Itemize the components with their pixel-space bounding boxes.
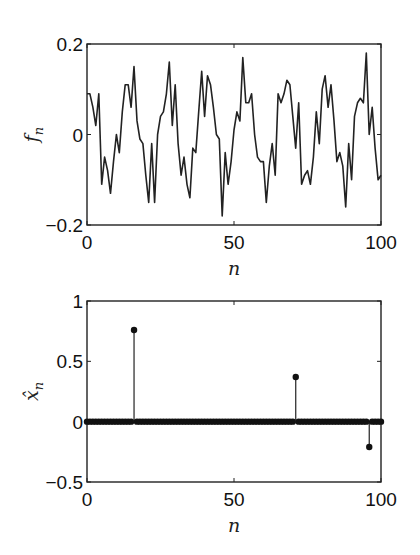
top-plot-tick-labels: 050100−0.200.2 [45, 34, 396, 253]
y-tick-label: 0.5 [57, 351, 83, 372]
top-plot-xlabel: n [228, 257, 240, 279]
y-tick-label: −0.2 [45, 215, 83, 236]
bottom-plot-xlabel: n [228, 514, 240, 536]
y-tick-label: −0.5 [45, 472, 83, 493]
bottom-plot-ylabel: x̂n [20, 382, 46, 401]
stem-marker [293, 374, 299, 380]
y-tick-label: 0 [72, 412, 83, 433]
y-tick-label: 0.2 [57, 34, 83, 55]
bottom-plot-stems [84, 327, 384, 450]
figure: 050100−0.200.2 n fn 050100−0.500.51 n x̂… [0, 0, 420, 555]
stem-marker [366, 444, 372, 450]
stem-marker [128, 418, 134, 424]
y-tick-label: 1 [72, 291, 83, 312]
top-plot-signal-line [87, 53, 381, 216]
x-tick-label: 50 [223, 489, 244, 510]
x-tick-label: 0 [82, 232, 93, 253]
figure-canvas: 050100−0.200.2 n fn 050100−0.500.51 n x̂… [0, 0, 420, 555]
bottom-plot: 050100−0.500.51 n x̂n [20, 291, 397, 536]
y-tick-label: 0 [72, 125, 83, 146]
stem-marker [363, 418, 369, 424]
stem-marker [131, 327, 137, 333]
bottom-plot-ticks [87, 301, 381, 482]
x-tick-label: 100 [365, 232, 397, 253]
top-plot: 050100−0.200.2 n fn [20, 34, 397, 279]
x-tick-label: 0 [82, 489, 93, 510]
top-plot-ylabel: fn [20, 127, 46, 144]
bottom-plot-tick-labels: 050100−0.500.51 [45, 291, 396, 510]
stem-marker [378, 418, 384, 424]
x-tick-label: 100 [365, 489, 397, 510]
bottom-plot-frame [87, 301, 381, 482]
stem-marker [290, 418, 296, 424]
x-tick-label: 50 [223, 232, 244, 253]
